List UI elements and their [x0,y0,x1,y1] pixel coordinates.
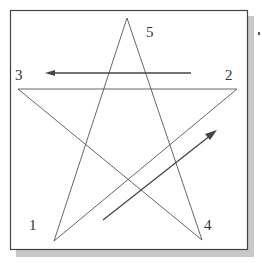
vertex-label-4: 4 [204,217,212,233]
vertex-label-5: 5 [146,24,154,40]
vertex-label-1: 1 [29,217,37,233]
vertex-label-3: 3 [15,67,23,83]
pentagram-diagram: 5 3 2 1 4 [0,0,262,263]
vertex-label-2: 2 [225,67,233,83]
diagram-frame [11,11,248,250]
tick-mark [258,32,260,35]
frame-shadow-bottom [16,250,254,257]
